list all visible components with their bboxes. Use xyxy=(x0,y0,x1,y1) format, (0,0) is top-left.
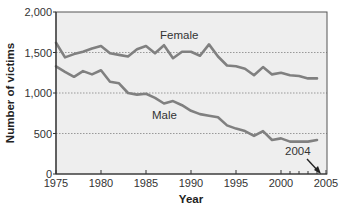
x-tick-label: 1995 xyxy=(224,177,248,189)
x-tick-label: 1990 xyxy=(179,177,203,189)
y-axis-ticks: 05001,0001,5002,000 xyxy=(24,6,56,180)
x-tick-label: 2000 xyxy=(269,177,293,189)
annotation-2004-label: 2004 xyxy=(285,145,311,157)
x-tick-label: 1985 xyxy=(134,177,158,189)
y-axis-title: Number of victims xyxy=(4,43,16,143)
x-tick-label: 2005 xyxy=(314,177,338,189)
male-series-label: Male xyxy=(152,109,177,121)
x-tick-label: 1980 xyxy=(89,177,113,189)
female-series-label: Female xyxy=(160,29,198,41)
y-tick-label: 1,500 xyxy=(24,47,52,59)
y-tick-label: 500 xyxy=(34,128,52,140)
x-axis-title: Year xyxy=(179,193,204,205)
x-tick-label: 1975 xyxy=(44,177,68,189)
line-chart: 05001,0001,5002,000 19751980198519901995… xyxy=(0,0,348,207)
y-tick-label: 1,000 xyxy=(24,87,52,99)
y-tick-label: 2,000 xyxy=(24,6,52,18)
